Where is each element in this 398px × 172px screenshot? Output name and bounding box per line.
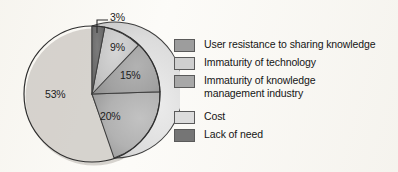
pie-svg <box>0 0 180 172</box>
legend-item-lack-of-need: Lack of need <box>174 128 398 142</box>
pie-label-9-percent: 9% <box>110 41 125 53</box>
legend-label-user-resistance: User resistance to sharing knowledge <box>204 38 376 51</box>
pie-chart-area: 3% 9% 15% 20% 53% <box>0 0 180 172</box>
pie-chart-figure: 3% 9% 15% 20% 53% User resistance to sha… <box>0 0 398 172</box>
legend-item-cost: Cost <box>174 110 398 124</box>
legend-label-immaturity-technology: Immaturity of technology <box>204 56 316 69</box>
pie-label-15-percent: 15% <box>120 69 140 81</box>
legend-swatch-icon <box>174 111 195 124</box>
legend-label-lack-of-need: Lack of need <box>204 128 263 141</box>
legend-swatch-icon <box>174 39 195 52</box>
pie-label-20-percent: 20% <box>100 110 120 122</box>
legend-label-km-industry-line1: Immaturity of knowledge <box>204 74 316 86</box>
legend-item-user-resistance: User resistance to sharing knowledge <box>174 38 398 52</box>
legend-label-km-industry-line2: management industry <box>204 87 316 100</box>
legend-swatch-icon <box>174 129 195 142</box>
legend-swatch-icon <box>174 75 195 88</box>
chart-legend: User resistance to sharing knowledge Imm… <box>174 38 398 146</box>
legend-item-km-industry: Immaturity of knowledge management indus… <box>174 74 398 99</box>
legend-label-km-industry: Immaturity of knowledge management indus… <box>204 74 316 99</box>
legend-item-immaturity-technology: Immaturity of technology <box>174 56 398 70</box>
legend-label-cost: Cost <box>204 110 225 123</box>
legend-spacer <box>174 103 398 110</box>
pie-label-3-percent: 3% <box>110 11 125 23</box>
pie-label-53-percent: 53% <box>45 88 65 100</box>
legend-swatch-icon <box>174 57 195 70</box>
